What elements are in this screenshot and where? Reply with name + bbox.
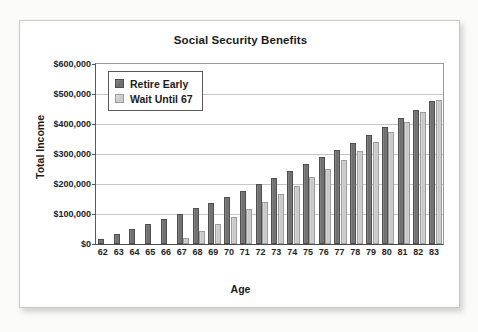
bar-group — [303, 64, 316, 244]
x-tick-label: 64 — [129, 247, 139, 257]
legend-item-retire-early[interactable]: Retire Early — [115, 76, 193, 91]
x-tick-label: 79 — [366, 247, 376, 257]
bar-retire-early[interactable] — [161, 219, 167, 244]
bar-wait-until-67[interactable] — [215, 224, 221, 244]
y-tick-label: $300,000 — [53, 149, 91, 159]
bar-wait-until-67[interactable] — [246, 209, 252, 244]
y-tick-label: $500,000 — [53, 89, 91, 99]
bar-retire-early[interactable] — [114, 234, 120, 244]
x-tick-label: 71 — [240, 247, 250, 257]
x-tick-label: 70 — [224, 247, 234, 257]
bar-retire-early[interactable] — [224, 197, 230, 244]
y-tick-label: $400,000 — [53, 119, 91, 129]
bar-retire-early[interactable] — [350, 143, 356, 244]
y-tick-label: $600,000 — [53, 59, 91, 69]
bar-wait-until-67[interactable] — [341, 160, 347, 244]
x-tick-label: 74 — [287, 247, 297, 257]
bar-group — [382, 64, 395, 244]
x-tick-label: 72 — [256, 247, 266, 257]
bar-group — [319, 64, 332, 244]
bar-retire-early[interactable] — [145, 224, 151, 244]
bar-retire-early[interactable] — [129, 229, 135, 244]
y-tick-label: $100,000 — [53, 209, 91, 219]
bar-wait-until-67[interactable] — [325, 169, 331, 244]
x-tick-label: 67 — [177, 247, 187, 257]
bar-group — [256, 64, 269, 244]
bar-wait-until-67[interactable] — [388, 132, 394, 244]
y-tick-label: $200,000 — [53, 179, 91, 189]
bar-retire-early[interactable] — [319, 157, 325, 244]
bar-wait-until-67[interactable] — [357, 151, 363, 244]
bar-retire-early[interactable] — [177, 214, 183, 244]
legend-item-wait-until-67[interactable]: Wait Until 67 — [115, 91, 193, 106]
bar-retire-early[interactable] — [398, 118, 404, 244]
bar-group — [398, 64, 411, 244]
bar-wait-until-67[interactable] — [278, 194, 284, 244]
bar-group — [350, 64, 363, 244]
bar-retire-early[interactable] — [193, 208, 199, 244]
x-tick-label: 78 — [350, 247, 360, 257]
legend-label-wait-until-67: Wait Until 67 — [130, 93, 193, 105]
x-tick-label: 73 — [271, 247, 281, 257]
bar-group — [271, 64, 284, 244]
bar-group — [334, 64, 347, 244]
bar-retire-early[interactable] — [413, 110, 419, 244]
x-axis-title: Age — [20, 283, 461, 295]
chart-title: Social Security Benefits — [20, 34, 461, 46]
bar-wait-until-67[interactable] — [436, 100, 442, 244]
y-tick-label: $0 — [81, 239, 91, 249]
bar-group — [224, 64, 237, 244]
x-tick-label: 81 — [398, 247, 408, 257]
x-tick-label: 77 — [334, 247, 344, 257]
chart-card: Social Security Benefits Total Income $0… — [19, 20, 460, 308]
legend-label-retire-early: Retire Early — [130, 78, 188, 90]
x-tick-label: 76 — [319, 247, 329, 257]
x-tick-label: 69 — [208, 247, 218, 257]
bar-group — [429, 64, 442, 244]
x-axis-ticks: 6263646566676869707172737475767778798081… — [95, 247, 442, 263]
y-axis-title: Total Income — [34, 87, 46, 207]
x-tick-label: 82 — [413, 247, 423, 257]
bar-retire-early[interactable] — [287, 171, 293, 244]
bar-retire-early[interactable] — [208, 203, 214, 244]
bar-wait-until-67[interactable] — [309, 177, 315, 244]
bar-retire-early[interactable] — [256, 184, 262, 244]
bar-group — [287, 64, 300, 244]
bar-group — [366, 64, 379, 244]
x-tick-label: 80 — [382, 247, 392, 257]
bar-wait-until-67[interactable] — [199, 231, 205, 244]
dark-gray-swatch-icon — [115, 79, 124, 88]
bar-group — [240, 64, 253, 244]
bar-wait-until-67[interactable] — [373, 142, 379, 244]
bar-retire-early[interactable] — [382, 127, 388, 244]
bar-group — [208, 64, 221, 244]
bar-retire-early[interactable] — [98, 239, 104, 244]
bar-group — [413, 64, 426, 244]
bar-retire-early[interactable] — [366, 135, 372, 244]
x-tick-label: 68 — [193, 247, 203, 257]
x-tick-label: 66 — [161, 247, 171, 257]
x-tick-label: 65 — [145, 247, 155, 257]
bar-retire-early[interactable] — [303, 164, 309, 244]
bar-wait-until-67[interactable] — [262, 202, 268, 244]
light-gray-swatch-icon — [115, 94, 124, 103]
x-tick-label: 75 — [303, 247, 313, 257]
chart-legend: Retire Early Wait Until 67 — [108, 71, 203, 111]
x-tick-label: 83 — [429, 247, 439, 257]
bar-wait-until-67[interactable] — [231, 217, 237, 244]
y-tick-mark — [92, 244, 96, 245]
bar-wait-until-67[interactable] — [404, 122, 410, 244]
x-tick-label: 62 — [98, 247, 108, 257]
bar-wait-until-67[interactable] — [294, 186, 300, 244]
page-background: Social Security Benefits Total Income $0… — [0, 0, 478, 332]
bar-wait-until-67[interactable] — [420, 112, 426, 244]
bar-wait-until-67[interactable] — [183, 238, 189, 244]
bar-retire-early[interactable] — [271, 178, 277, 244]
bar-retire-early[interactable] — [334, 150, 340, 244]
x-tick-label: 63 — [114, 247, 124, 257]
bar-retire-early[interactable] — [429, 101, 435, 244]
bar-retire-early[interactable] — [240, 191, 246, 244]
